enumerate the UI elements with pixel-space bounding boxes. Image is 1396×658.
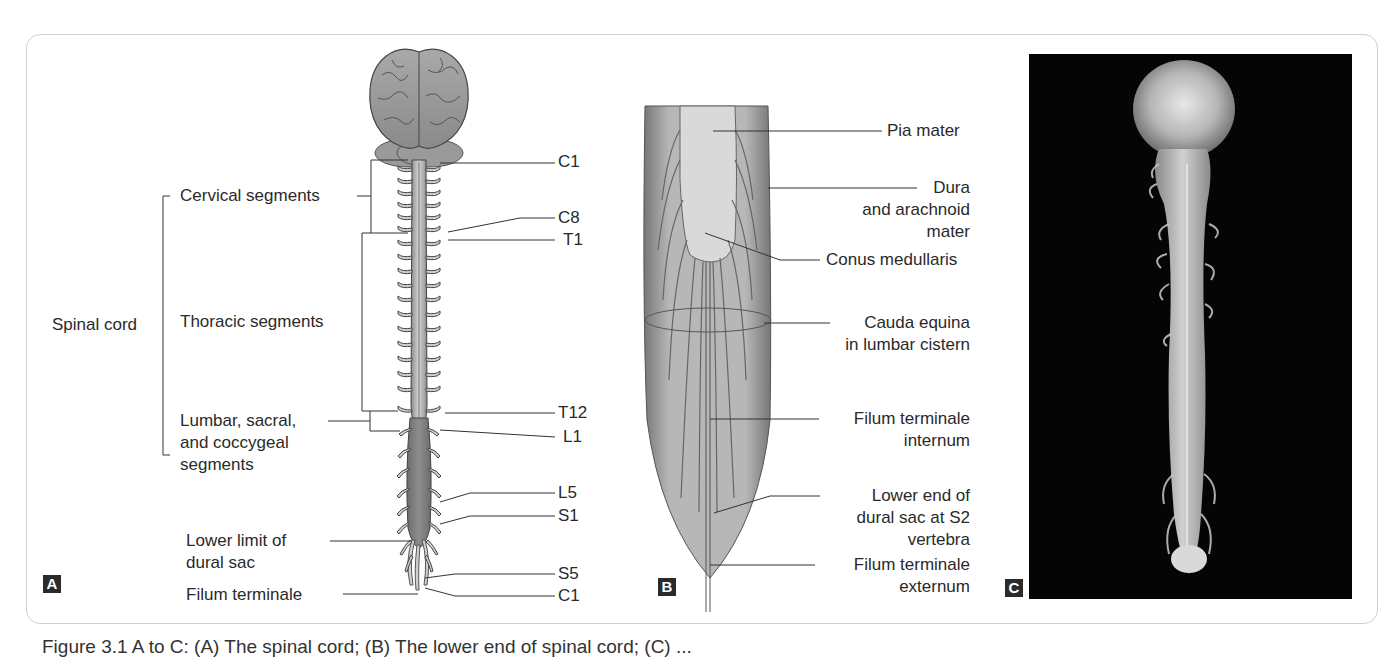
panel-tag-a: A xyxy=(43,575,61,593)
label-cauda-2: in lumbar cistern xyxy=(845,334,970,355)
conus-illustration xyxy=(644,106,771,612)
label-lumbar-3: segments xyxy=(180,454,254,475)
label-t1: T1 xyxy=(563,229,583,250)
label-lower-limit-1: Lower limit of xyxy=(186,530,286,551)
label-lumbar-2: and coccygeal xyxy=(180,432,289,453)
label-dura-2: and arachnoid xyxy=(862,199,970,220)
label-c8: C8 xyxy=(558,207,580,228)
label-lower-end-1: Lower end of xyxy=(872,485,970,506)
label-c1-bottom: C1 xyxy=(558,585,580,606)
label-pia-mater: Pia mater xyxy=(887,120,960,141)
specimen-photo xyxy=(1029,54,1352,599)
label-cervical-segments: Cervical segments xyxy=(180,185,320,206)
label-t12: T12 xyxy=(558,402,587,423)
label-filum-externum-1: Filum terminale xyxy=(854,554,970,575)
figure-caption: Figure 3.1 A to C: (A) The spinal cord; … xyxy=(42,636,692,658)
label-lumbar-1: Lumbar, sacral, xyxy=(180,410,296,431)
label-filum-terminale: Filum terminale xyxy=(186,584,302,605)
label-filum-externum-2: externum xyxy=(899,576,970,597)
label-s5: S5 xyxy=(558,563,579,584)
label-lower-limit-2: dural sac xyxy=(186,552,255,573)
label-c1-top: C1 xyxy=(558,151,580,172)
label-filum-internum-2: internum xyxy=(904,430,970,451)
label-l1: L1 xyxy=(563,426,582,447)
label-l5: L5 xyxy=(558,482,577,503)
label-s1: S1 xyxy=(558,505,579,526)
specimen-illustration xyxy=(1029,54,1352,599)
label-conus-medullaris: Conus medullaris xyxy=(826,249,957,270)
label-cauda-1: Cauda equina xyxy=(864,312,970,333)
label-filum-internum-1: Filum terminale xyxy=(854,408,970,429)
label-thoracic-segments: Thoracic segments xyxy=(180,311,324,332)
label-dura-1: Dura xyxy=(933,177,970,198)
panel-tag-c: C xyxy=(1005,579,1023,597)
label-spinal-cord: Spinal cord xyxy=(52,314,137,335)
label-lower-end-3: vertebra xyxy=(908,529,970,550)
label-lower-end-2: dural sac at S2 xyxy=(857,507,970,528)
panel-tag-b: B xyxy=(658,578,676,596)
label-dura-3: mater xyxy=(927,221,970,242)
